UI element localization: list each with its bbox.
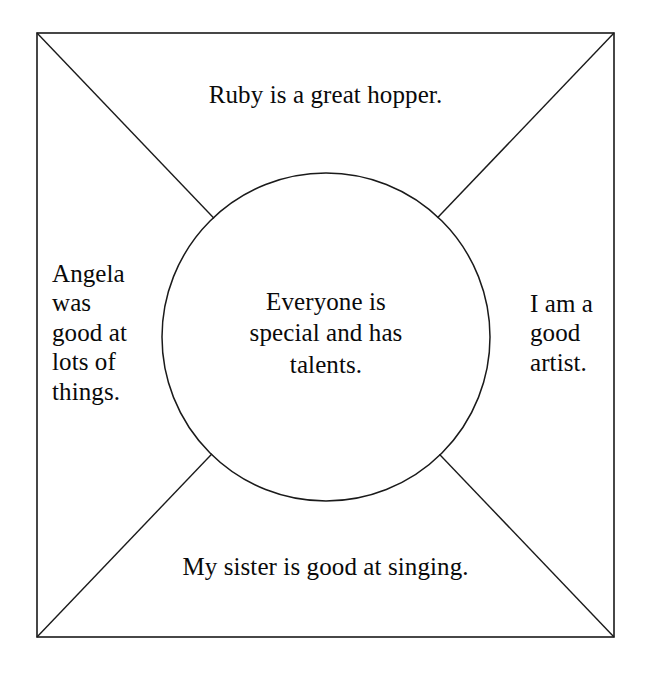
placemat-diagram: Ruby is a great hopper. Angela was good … (0, 0, 648, 674)
bottom-quadrant-text: My sister is good at singing. (37, 552, 614, 581)
right-quadrant-text: I am a good artist. (530, 289, 630, 377)
center-circle-text: Everyone is special and has talents. (196, 286, 456, 380)
top-quadrant-text: Ruby is a great hopper. (37, 80, 614, 109)
left-quadrant-text: Angela was good at lots of things. (52, 259, 164, 406)
